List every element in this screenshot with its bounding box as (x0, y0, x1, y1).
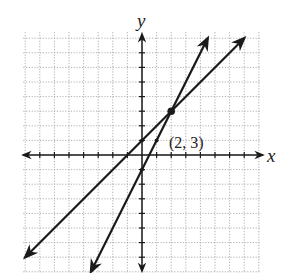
x-axis-label: x (266, 145, 276, 166)
y-axis-label: y (135, 10, 146, 31)
intersection-label: (2, 3) (169, 134, 204, 152)
line-point (140, 138, 144, 142)
axes (23, 34, 263, 271)
line-1 (25, 38, 244, 257)
coordinate-plane: x y (2, 3) (0, 0, 285, 273)
line-point (140, 168, 144, 172)
intersection-point (167, 107, 175, 115)
line-point (155, 138, 159, 142)
